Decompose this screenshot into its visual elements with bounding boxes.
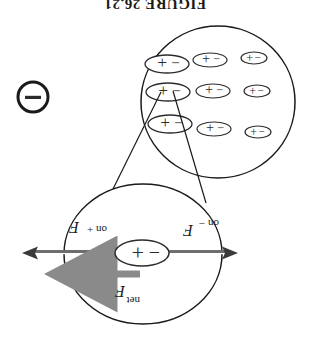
central-dipole-negative-sign: − — [149, 242, 160, 264]
force-on-positive-label-sub: on + — [87, 224, 107, 236]
dipole-positive-sign: + — [158, 81, 168, 100]
force-on-positive-label-base: F — [69, 219, 80, 236]
dipole-negative-sign: − — [259, 126, 265, 138]
figure-caption-clipped: FIGURE 26.21 — [0, 0, 310, 11]
dipole-negative-sign: − — [175, 115, 183, 131]
dipole-positive-sign: + — [246, 50, 253, 64]
force-on-negative-label-base: F — [183, 222, 194, 239]
figure-canvas: − + − + − + — [0, 0, 310, 344]
dipole-negative-sign: − — [213, 52, 220, 66]
dipole-positive-sign: + — [249, 83, 256, 97]
dipole-positive-sign: + — [157, 53, 167, 72]
magnified-dipole-circle: − + F on − F on + F net — [22, 184, 238, 324]
dipole-positive-sign: + — [202, 51, 210, 66]
central-dipole-positive-sign: + — [132, 240, 144, 265]
dipole-positive-sign: + — [250, 124, 257, 138]
dipole-positive-sign: + — [205, 82, 213, 97]
rotated-figure-group: − + − + − + — [0, 0, 310, 344]
dipole-negative-sign: − — [255, 52, 261, 64]
dipole-negative-sign: − — [216, 83, 223, 97]
dipole-negative-sign: − — [258, 85, 264, 97]
dipole-negative-sign: − — [172, 55, 180, 71]
force-on-negative-label-sub: on − — [199, 218, 219, 230]
point-charge-minus-sign — [25, 96, 41, 99]
dipole-negative-sign: − — [217, 121, 224, 135]
external-negative-point-charge — [18, 82, 48, 112]
object-boundary — [141, 26, 295, 178]
force-net-label-base: F — [115, 283, 126, 300]
force-net-label-sub: net — [127, 295, 140, 307]
dipole-negative-sign: − — [173, 83, 181, 99]
dipole-positive-sign: + — [160, 113, 170, 132]
polarized-object-circle: − + − + − + — [141, 26, 295, 178]
central-dipole: − + — [115, 240, 169, 266]
figure-caption-text: FIGURE 26.21 — [0, 0, 310, 11]
physics-diagram-svg: − + − + − + — [0, 0, 310, 344]
dipole-positive-sign: + — [206, 120, 214, 135]
